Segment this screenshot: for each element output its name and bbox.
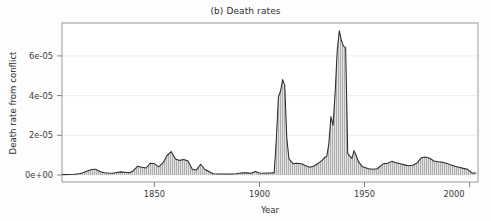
x-axis-title: Year (260, 205, 280, 215)
ytick-label-4e-05: 4e-05 (29, 91, 53, 101)
x-axis-ticks (154, 182, 469, 187)
y-axis-ticks (57, 56, 62, 175)
x-axis-tick-labels: 1850 1900 1950 2000 (144, 189, 465, 199)
xtick-label-1900: 1900 (249, 189, 270, 199)
y-axis-tick-labels: 0e+00 2e-05 4e-05 6e-05 (25, 51, 53, 180)
xtick-label-1950: 1950 (354, 189, 375, 199)
xtick-label-2000: 2000 (443, 189, 464, 199)
ytick-label-6e-05: 6e-05 (29, 51, 53, 61)
y-axis-title: Death rate from conflict (8, 51, 18, 155)
ytick-label-0: 0e+00 (25, 170, 53, 180)
ytick-label-2e-05: 2e-05 (29, 130, 53, 140)
plot-background (62, 23, 478, 182)
chart-figure: (b) Death rates (0, 0, 491, 221)
death-rates-chart: 0e+00 2e-05 4e-05 6e-05 1850 1900 1950 2… (0, 0, 491, 221)
xtick-label-1850: 1850 (144, 189, 165, 199)
